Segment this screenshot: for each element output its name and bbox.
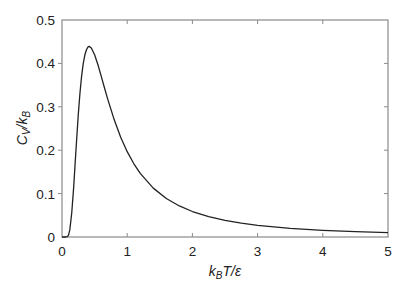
y-tick-label: 0.5: [36, 13, 55, 28]
x-tick-label: 0: [58, 244, 66, 259]
y-axis-title: CV/kB: [14, 110, 32, 145]
plot-border: [62, 20, 388, 237]
x-tick-label: 2: [189, 244, 197, 259]
y-tick-label: 0: [47, 230, 55, 245]
y-tick-label: 0.3: [36, 100, 55, 115]
x-tick-label: 3: [254, 244, 262, 259]
x-tick-label: 5: [384, 244, 392, 259]
heat-capacity-curve: [62, 46, 388, 237]
y-axis-tick-labels: 00.10.20.30.40.5: [36, 13, 55, 245]
y-tick-label: 0.2: [36, 143, 55, 158]
x-axis-tick-labels: 012345: [58, 244, 392, 259]
x-axis-ticks: [127, 20, 323, 237]
plot-frame: [62, 20, 388, 237]
x-tick-label: 1: [123, 244, 131, 259]
x-axis-title: kBT/ε: [209, 263, 242, 281]
y-tick-label: 0.1: [36, 187, 55, 202]
y-axis-ticks: [58, 63, 388, 193]
x-tick-label: 4: [319, 244, 327, 259]
chart: 012345 00.10.20.30.40.5 kBT/ε CV/kB: [0, 0, 402, 292]
y-tick-label: 0.4: [36, 56, 55, 71]
